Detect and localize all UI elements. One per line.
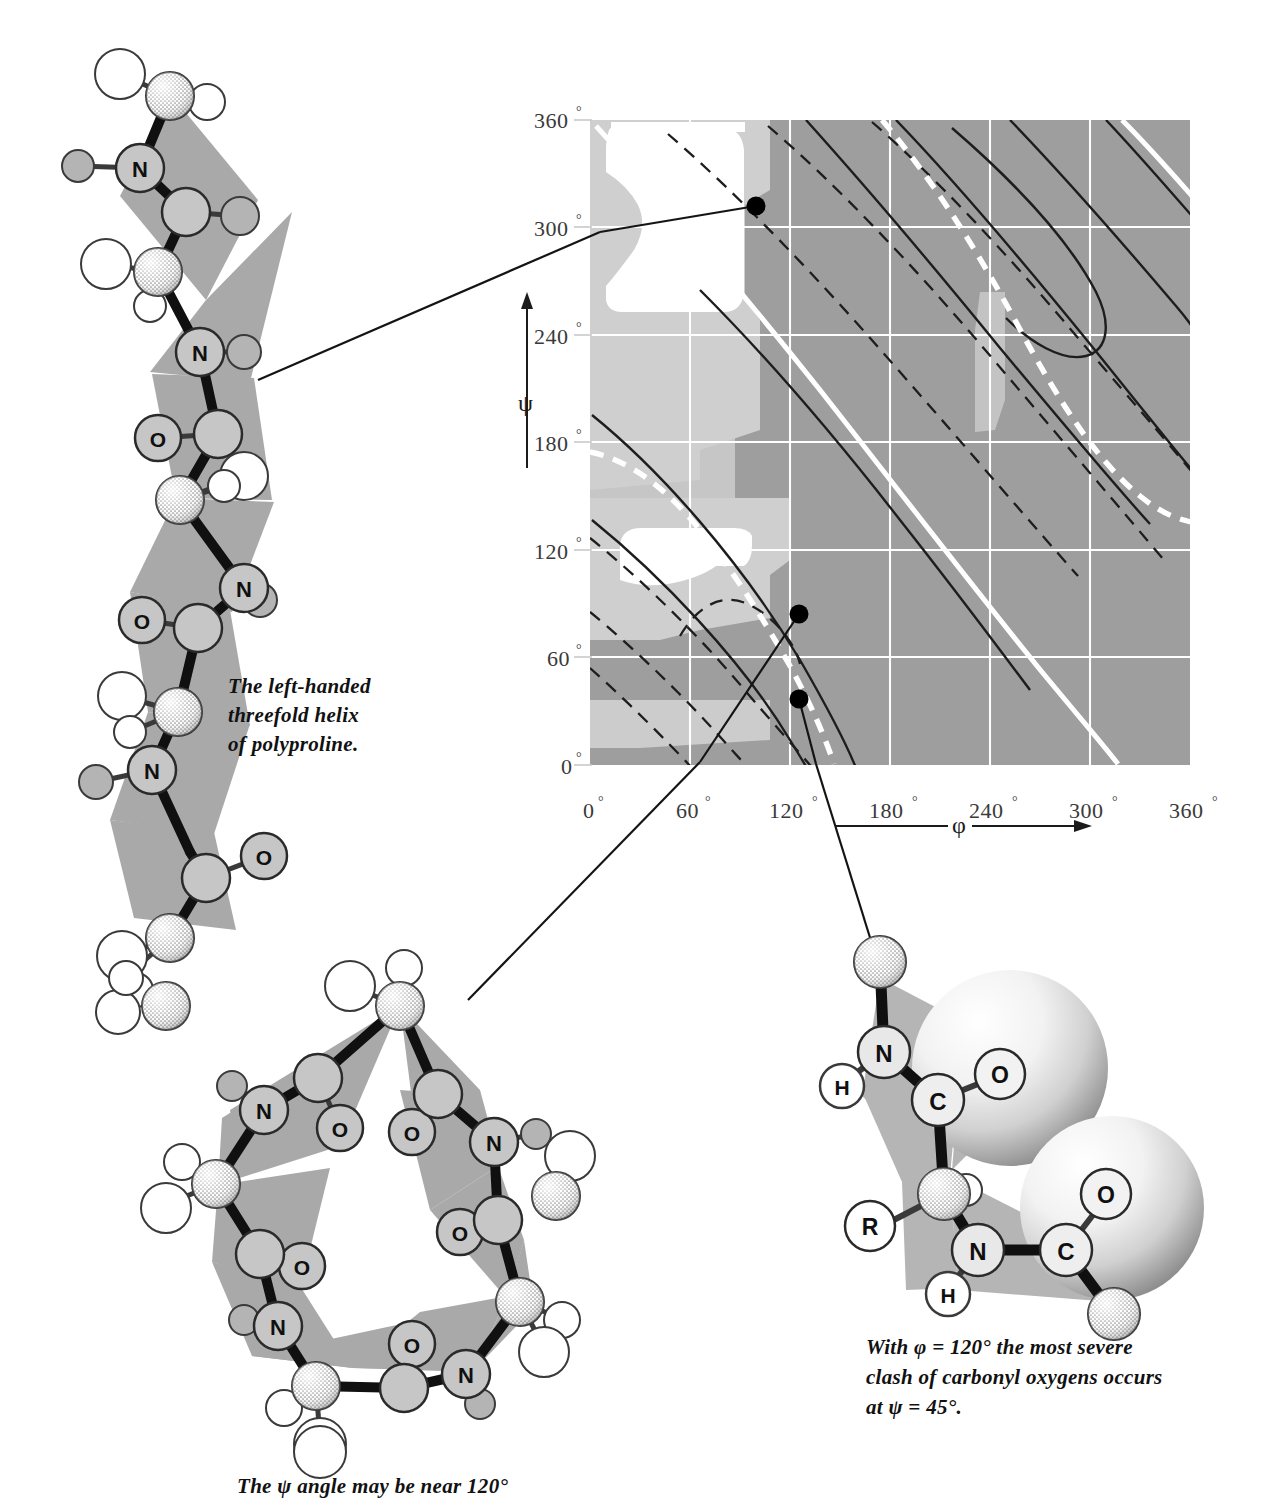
substituent-atom xyxy=(521,1119,551,1149)
plot-surface xyxy=(590,120,1192,786)
atom-label-o: O xyxy=(150,428,166,451)
carbonyl-carbon-atom xyxy=(294,1054,342,1102)
alpha-carbon-shading xyxy=(142,982,190,1030)
substituent-atom xyxy=(62,150,94,182)
caption-bottom-clipped: The ψ angle may be near 120° xyxy=(237,1472,508,1501)
alpha-carbon-shading xyxy=(292,1362,340,1410)
alpha-carbon-shading xyxy=(134,248,182,296)
carbonyl-carbon-atom xyxy=(194,410,242,458)
atom-label-o: O xyxy=(452,1222,468,1245)
atom-label-c: C xyxy=(929,1088,946,1115)
substituent-atom xyxy=(221,197,259,235)
atom-label-h: H xyxy=(940,1284,955,1307)
alpha-carbon-shading xyxy=(918,1168,970,1220)
substituent-atom xyxy=(79,765,113,799)
y-tick-360-degree: ° xyxy=(576,104,582,120)
atom-label-o: O xyxy=(404,1334,420,1357)
plot-allowed-top-sliver xyxy=(611,122,745,132)
atom-label-h: H xyxy=(834,1076,849,1099)
carbonyl-carbon-atom xyxy=(414,1070,462,1118)
x-tick-120-degree: ° xyxy=(812,794,818,810)
hydrogen-atom xyxy=(81,239,131,289)
atom-label-n: N xyxy=(192,341,208,366)
atom-label-n: N xyxy=(256,1099,272,1124)
hydrogen-atom xyxy=(208,470,240,502)
hydrogen-atom xyxy=(294,1426,346,1478)
hydrogen-atom xyxy=(109,961,143,995)
hydrogen-atom xyxy=(96,990,140,1034)
carbonyl-carbon-atom xyxy=(182,854,230,902)
hydrogen-atom xyxy=(519,1327,569,1377)
atom-label-o: O xyxy=(991,1062,1009,1088)
y-axis-title-psi: ψ xyxy=(518,390,534,417)
y-tick-360: 360 xyxy=(534,108,569,134)
alpha-carbon-shading xyxy=(146,914,194,962)
hydrogen-atom xyxy=(386,950,422,986)
carbonyl-carbon-atom xyxy=(474,1196,522,1244)
alpha-carbon-shading xyxy=(532,1172,580,1220)
atom-label-o: O xyxy=(332,1118,348,1141)
carbonyl-carbon-atom xyxy=(236,1230,284,1278)
y-tick-120-degree: ° xyxy=(576,535,582,551)
x-tick-240: 240 xyxy=(969,798,1004,824)
y-tick-300: 300 xyxy=(534,216,569,242)
hydrogen-atom xyxy=(95,49,145,99)
x-tick-360: 360 xyxy=(1169,798,1204,824)
carbonyl-carbon-atom xyxy=(162,188,210,236)
atom-label-n: N xyxy=(132,157,148,182)
y-tick-60: 60 xyxy=(547,646,570,672)
atom-label-c: C xyxy=(1057,1238,1074,1265)
atom-label-n: N xyxy=(270,1315,286,1340)
atom-label-o: O xyxy=(256,846,272,869)
alpha-carbon-shading xyxy=(146,72,194,120)
x-tick-60-degree: ° xyxy=(705,794,711,810)
atom-label-n: N xyxy=(458,1363,474,1388)
marker-polyproline-helix[interactable] xyxy=(747,197,766,216)
atom-label-o: O xyxy=(294,1256,310,1279)
substituent-atom xyxy=(217,1071,247,1101)
y-tick-180: 180 xyxy=(534,431,569,457)
atom-label-o: O xyxy=(404,1122,420,1145)
caption-polyproline-helix: The left-handed threefold helix of polyp… xyxy=(228,672,371,759)
y-tick-300-degree: ° xyxy=(576,212,582,228)
x-tick-0-degree: ° xyxy=(598,794,604,810)
hydrogen-atom xyxy=(325,961,375,1011)
x-axis-title-phi: φ xyxy=(952,812,966,839)
y-tick-240: 240 xyxy=(534,324,569,350)
alpha-carbon-shading xyxy=(854,936,906,988)
atom-label-n: N xyxy=(486,1131,502,1156)
alpha-carbon-shading xyxy=(154,688,202,736)
alpha-carbon-shading xyxy=(496,1278,544,1326)
alpha-carbon-shading xyxy=(192,1160,240,1208)
marker-cyclic-structure[interactable] xyxy=(790,605,809,624)
atom-label-n: N xyxy=(875,1040,892,1067)
alpha-carbon-shading xyxy=(376,982,424,1030)
y-tick-0: 0 xyxy=(561,754,573,780)
y-tick-240-degree: ° xyxy=(576,320,582,336)
carbonyl-carbon-atom xyxy=(174,604,222,652)
x-tick-180: 180 xyxy=(869,798,904,824)
y-tick-180-degree: ° xyxy=(576,427,582,443)
substituent-atom xyxy=(227,335,261,369)
hydrogen-atom xyxy=(114,716,146,748)
plot-level-light-bottom xyxy=(590,700,770,748)
x-tick-300-degree: ° xyxy=(1112,794,1118,810)
hydrogen-atom xyxy=(98,672,146,720)
x-tick-360-degree: ° xyxy=(1212,794,1218,810)
carbonyl-carbon-atom xyxy=(380,1364,428,1412)
atom-label-n: N xyxy=(969,1238,986,1265)
y-tick-120: 120 xyxy=(534,539,569,565)
atom-label-o: O xyxy=(134,610,150,633)
x-tick-300: 300 xyxy=(1069,798,1104,824)
caption-oxygen-clash: With φ = 120° the most severe clash of c… xyxy=(866,1332,1163,1422)
marker-oxygen-clash[interactable] xyxy=(790,690,809,709)
atom-label-o: O xyxy=(1097,1182,1115,1208)
x-tick-60: 60 xyxy=(676,798,699,824)
y-tick-60-degree: ° xyxy=(576,642,582,658)
x-tick-120: 120 xyxy=(769,798,804,824)
x-tick-240-degree: ° xyxy=(1012,794,1018,810)
alpha-carbon-shading xyxy=(156,476,204,524)
y-tick-0-degree: ° xyxy=(576,750,582,766)
x-tick-180-degree: ° xyxy=(912,794,918,810)
